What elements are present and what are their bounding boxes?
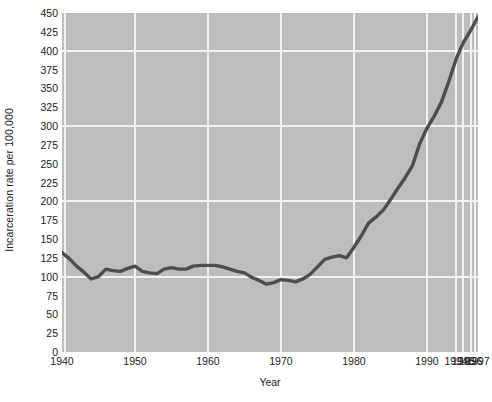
x-tick-label: 1960 [196,356,219,367]
y-axis-tick-labels: 4504254003753503253002752502252001751501… [16,0,58,360]
plot-area [62,13,478,352]
data-series-line [62,13,478,352]
y-tick-label: 250 [16,158,58,169]
y-tick-label: 200 [16,196,58,207]
x-axis-title: Year [62,376,478,388]
y-tick-label: 275 [16,140,58,151]
x-tick-label: 1990 [415,356,438,367]
x-tick-label: 1980 [342,356,365,367]
y-axis-title: Incarceration rate per 100,000 [3,108,15,252]
x-tick-label: 1997 [466,356,489,367]
y-tick-label: 75 [16,290,58,301]
y-tick-label: 350 [16,83,58,94]
y-tick-label: 50 [16,309,58,320]
y-tick-label: 25 [16,328,58,339]
y-tick-label: 375 [16,64,58,75]
y-tick-label: 300 [16,121,58,132]
chart-figure: Incarceration rate per 100,000 450425400… [0,0,492,402]
x-tick-label: 1940 [50,356,73,367]
x-axis-tick-labels: 1940195019601970198019901994199519961997 [0,356,492,376]
y-tick-label: 325 [16,102,58,113]
y-tick-label: 125 [16,253,58,264]
y-tick-label: 100 [16,271,58,282]
y-tick-label: 400 [16,45,58,56]
y-tick-label: 225 [16,177,58,188]
x-tick-label: 1950 [123,356,146,367]
y-tick-label: 450 [16,8,58,19]
x-tick-label: 1970 [269,356,292,367]
y-tick-label: 425 [16,27,58,38]
y-tick-label: 175 [16,215,58,226]
y-tick-label: 150 [16,234,58,245]
